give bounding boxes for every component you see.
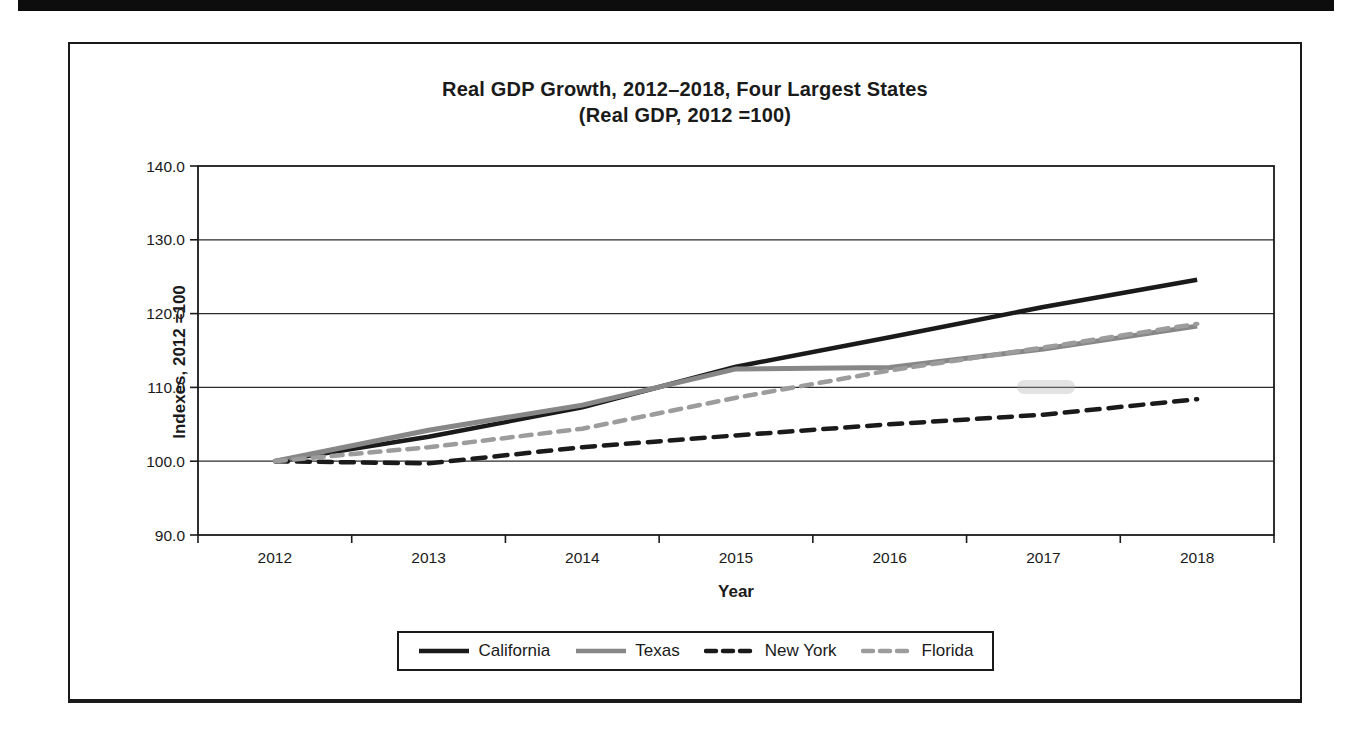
legend-label: New York [765,641,837,661]
x-axis-tick-label: 2017 [1026,549,1060,566]
legend-entry-florida: Florida [861,641,974,661]
legend-label: California [478,641,550,661]
y-axis-tick-label: 120.0 [146,305,185,322]
y-axis-tick-label: 130.0 [146,231,185,248]
legend-label: Florida [922,641,974,661]
x-axis-tick-label: 2013 [411,549,445,566]
legend-line-sample [704,647,758,655]
chart-figure: Real GDP Growth, 2012–2018, Four Largest… [68,42,1302,703]
y-axis-tick-label: 100.0 [146,453,185,470]
x-axis-tick-label: 2018 [1180,549,1214,566]
page-top-rule [18,0,1334,11]
legend-entry-new-york: New York [704,641,837,661]
legend-entry-texas: Texas [574,641,679,661]
x-axis-tick-label: 2015 [719,549,753,566]
scanned-chart-page: Real GDP Growth, 2012–2018, Four Largest… [0,0,1370,755]
legend-line-sample [417,647,471,655]
plot-border [198,166,1274,535]
x-axis-tick-label: 2012 [258,549,292,566]
x-axis-title: Year [198,582,1274,602]
scan-artifact [1017,380,1075,394]
y-axis-tick-label: 90.0 [155,527,186,544]
y-axis-tick-label: 140.0 [146,158,185,175]
legend-line-sample [861,647,915,655]
y-axis-tick-label: 110.0 [147,379,185,396]
legend-line-sample [574,647,628,655]
legend-entry-california: California [417,641,550,661]
chart-legend: CaliforniaTexasNew YorkFlorida [397,631,994,671]
legend-label: Texas [635,641,679,661]
x-axis-tick-label: 2014 [565,549,600,566]
x-axis-tick-label: 2016 [872,549,906,566]
